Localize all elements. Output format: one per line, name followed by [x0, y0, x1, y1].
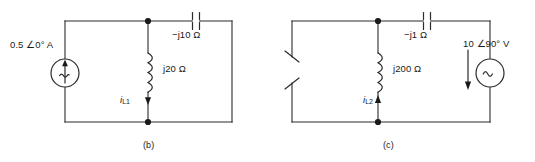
current-arrow-c — [375, 95, 381, 103]
caption-b: (b) — [143, 141, 154, 150]
current-subscript-c: L2 — [365, 98, 373, 105]
node-c-bottom — [375, 119, 381, 125]
circuit-figure: 0.5 ∠0° A −j10 Ω j20 Ω iL1 (b) −j1 Ω j20… — [0, 0, 535, 162]
inductor-label-c: j200 Ω — [393, 64, 421, 74]
circuit-svg — [0, 0, 535, 162]
current-label-c: iL2 — [363, 95, 373, 105]
capacitor-label-c: −j1 Ω — [404, 30, 427, 40]
current-arrow-b — [145, 97, 151, 105]
source-label-b: 0.5 ∠0° A — [10, 40, 53, 50]
inductor-c-coil — [378, 53, 382, 92]
caption-c: (c) — [383, 141, 394, 150]
current-subscript-b: L1 — [122, 98, 130, 105]
source-label-c: 10 ∠90° V — [463, 39, 509, 49]
inductor-b-coil — [148, 53, 152, 92]
capacitor-label-b: −j10 Ω — [172, 30, 201, 40]
voltage-source-c-circle — [476, 59, 504, 87]
node-b-top — [145, 18, 151, 24]
node-b-bottom — [145, 119, 151, 125]
node-c-top — [375, 18, 381, 24]
current-label-b: iL1 — [120, 95, 130, 105]
inductor-label-b: j20 Ω — [163, 64, 186, 74]
circuit-b-group — [51, 13, 232, 126]
voltage-arrow-c-head — [465, 82, 471, 91]
